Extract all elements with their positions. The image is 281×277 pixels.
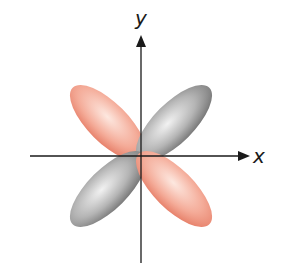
- orbital-diagram: x y: [0, 0, 281, 277]
- x-axis-label: x: [252, 144, 265, 168]
- y-axis-label: y: [134, 6, 148, 30]
- x-axis-arrow-icon: [238, 151, 250, 161]
- lobe-lower-right: [125, 140, 224, 239]
- y-axis-arrow-icon: [136, 35, 146, 47]
